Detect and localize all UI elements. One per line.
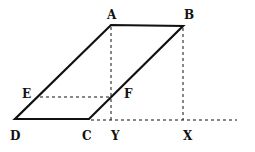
label-c: C — [82, 129, 92, 143]
label-e: E — [22, 87, 31, 101]
geometry-diagram: A B E F D C Y X — [0, 0, 255, 152]
label-x: X — [183, 129, 193, 143]
label-a: A — [106, 8, 117, 22]
label-y: Y — [110, 129, 120, 143]
label-b: B — [184, 8, 194, 22]
label-f: F — [124, 87, 133, 101]
diagram-svg: A B E F D C Y X — [0, 0, 255, 152]
parallelogram-abcd — [15, 25, 183, 119]
label-d: D — [10, 129, 20, 143]
